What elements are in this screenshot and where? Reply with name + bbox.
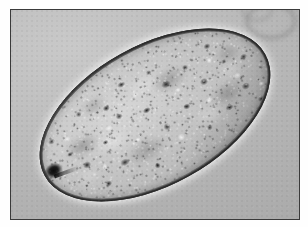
granule-speckle-b bbox=[15, 10, 295, 219]
granule-layer-light bbox=[15, 10, 295, 219]
egg-shell-wall bbox=[11, 10, 299, 219]
specimen-egg bbox=[11, 10, 299, 219]
image-plate bbox=[0, 0, 308, 227]
yolk-dark-clumps bbox=[15, 10, 295, 219]
micrograph-frame bbox=[10, 9, 300, 220]
microscope-field bbox=[11, 10, 299, 219]
granule-speckle-c bbox=[52, 10, 258, 219]
egg-granular-contents bbox=[15, 10, 295, 219]
granule-layer-dark-b bbox=[15, 10, 295, 219]
granule-layer-dark-a bbox=[15, 10, 295, 219]
granule-speckle-a bbox=[15, 10, 295, 219]
yolk-light-zones bbox=[15, 10, 295, 219]
